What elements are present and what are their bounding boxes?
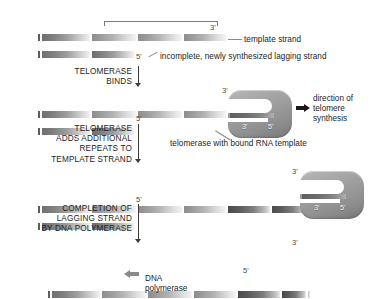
telomere-synthesis-direction-label: direction of telomere synthesis — [313, 94, 353, 123]
telomere-repeat-bracket — [104, 21, 218, 26]
dna-polymerase-arrow — [124, 270, 139, 278]
enzyme-inner-gap — [300, 199, 340, 203]
stage1-five-prime-label: 5' — [136, 52, 142, 61]
repeat-unit — [228, 206, 270, 213]
direction-line: direction of — [313, 94, 353, 104]
repeat-unit — [42, 51, 90, 58]
strand-end-cap — [38, 51, 40, 58]
repeat-unit — [102, 291, 146, 298]
stage2-three-prime-label: 3' — [222, 86, 228, 95]
repeat-unit — [92, 51, 134, 58]
step-arrow-head — [135, 239, 141, 243]
enzyme-three-prime-label: 3' — [242, 122, 248, 131]
stage3-five-prime-label: 5' — [136, 195, 142, 204]
enzyme-active-site-notch — [228, 99, 272, 113]
step-line: ADDS ADDITIONAL — [8, 134, 132, 144]
enzyme-inner-gap — [228, 118, 268, 122]
telomerase-caption-label: telomerase with bound RNA template — [170, 139, 307, 149]
repeat-unit — [52, 291, 100, 298]
lagging-strand-leader-line — [148, 52, 157, 58]
repeat-unit — [194, 291, 236, 298]
step-line: REPEATS TO — [8, 144, 132, 154]
step-line: TELOMERASE — [8, 124, 132, 134]
step-line: TEMPLATE STRAND — [8, 155, 132, 165]
repeat-unit — [184, 34, 226, 41]
stage4-five-prime-label: 5' — [243, 266, 249, 275]
step-line: BINDS — [28, 77, 132, 87]
repeat-unit — [42, 111, 90, 118]
arrow-shaft — [130, 272, 139, 276]
arrow-head — [304, 104, 310, 112]
stage4-three-prime-label: 3' — [292, 238, 298, 247]
repeat-unit — [308, 291, 310, 298]
step-telomerase-binds: TELOMERASE BINDS — [28, 67, 132, 87]
step-arrow-shaft — [138, 124, 139, 160]
step-arrow-shaft — [138, 66, 139, 84]
telomerase-enzyme: 3' 5' — [300, 171, 364, 219]
telomerase-enzyme: 3' 5' — [228, 90, 292, 138]
step-line: BY DNA POLYMERASE — [4, 224, 132, 234]
enzyme-five-prime-label: 5' — [340, 203, 346, 212]
telomere-synthesis-direction-arrow — [296, 104, 310, 112]
direction-line: synthesis — [313, 114, 353, 124]
stage1-lagging-strand — [38, 51, 134, 58]
direction-line: telomere — [313, 104, 353, 114]
step-arrow-head — [135, 159, 141, 163]
step-line: LAGGING STRAND — [4, 214, 132, 224]
stage1-three-prime-label: 3' — [210, 23, 216, 32]
stage3-three-prime-label: 3' — [292, 167, 298, 176]
enzyme-five-prime-label: 5' — [268, 122, 274, 131]
strand-end-cap — [48, 291, 50, 298]
repeat-unit — [138, 206, 182, 213]
step-arrow-head — [135, 83, 141, 87]
repeat-unit — [92, 34, 136, 41]
step-line: COMPLETION OF — [4, 204, 132, 214]
enzyme-three-prime-label: 3' — [314, 203, 320, 212]
repeat-unit — [138, 111, 182, 118]
enzyme-active-site-notch — [300, 180, 344, 194]
repeat-unit — [42, 34, 90, 41]
repeat-unit — [238, 291, 280, 298]
template-strand-leader-line — [228, 39, 242, 40]
arrow-shaft — [296, 106, 304, 110]
repeat-unit — [138, 34, 182, 41]
template-strand-label: template strand — [244, 35, 301, 45]
stage2-five-prime-label: 5' — [136, 114, 142, 123]
step-line: TELOMERASE — [28, 67, 132, 77]
stage1-template-strand — [38, 34, 228, 41]
repeat-unit — [282, 291, 306, 298]
dna-pol-line: polymerase — [145, 284, 187, 294]
repeat-unit — [184, 111, 226, 118]
strand-end-cap — [38, 34, 40, 41]
dna-pol-line: DNA — [145, 274, 187, 284]
lagging-strand-label: incomplete, newly synthesized lagging st… — [160, 52, 327, 62]
repeat-unit — [92, 111, 136, 118]
strand-end-cap — [38, 111, 40, 118]
dna-polymerase-label: DNA polymerase — [145, 274, 187, 294]
step-arrow-shaft — [138, 204, 139, 240]
repeat-unit — [184, 206, 226, 213]
step-completion-lagging-strand: COMPLETION OF LAGGING STRAND BY DNA POLY… — [4, 204, 132, 235]
step-telomerase-adds-repeats: TELOMERASE ADDS ADDITIONAL REPEATS TO TE… — [8, 124, 132, 165]
